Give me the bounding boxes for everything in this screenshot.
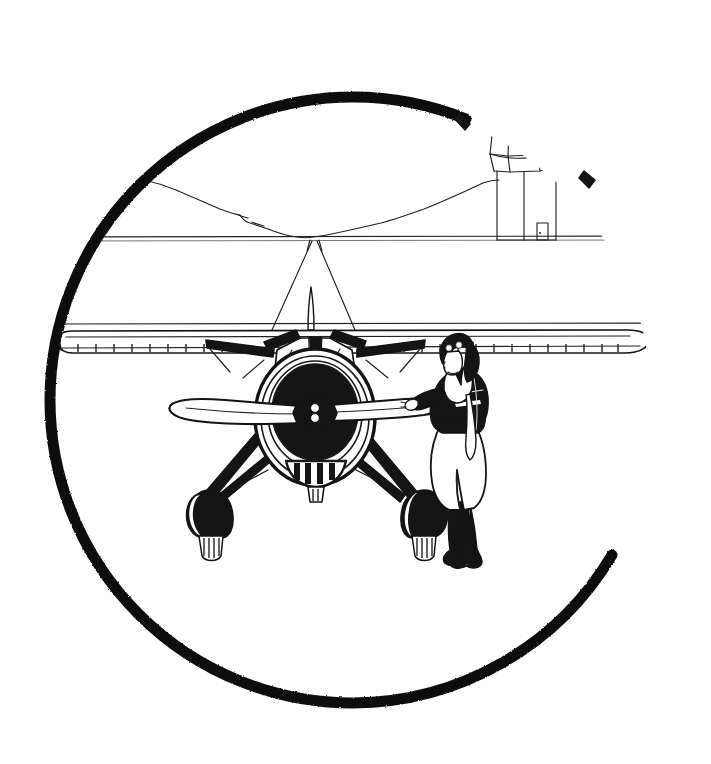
nose-stub xyxy=(308,487,324,502)
aviation-emblem-illustration xyxy=(0,0,711,764)
pilot-hand xyxy=(405,399,418,410)
breeches xyxy=(431,421,486,510)
artboard xyxy=(0,0,711,764)
face-profile xyxy=(444,351,463,375)
spinner-hub xyxy=(293,392,337,434)
